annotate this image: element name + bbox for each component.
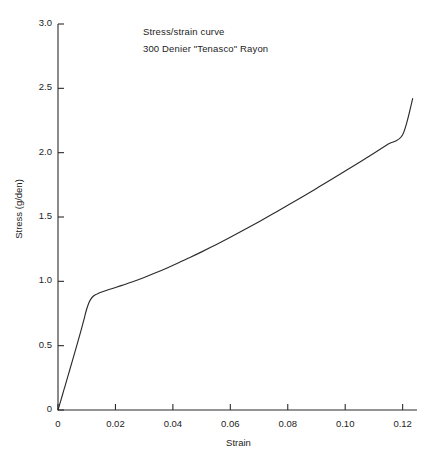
x-tick-label: 0.02 xyxy=(85,418,145,429)
x-tick-label: 0.10 xyxy=(315,418,375,429)
y-tick-marks xyxy=(58,24,64,410)
x-tick-label: 0.08 xyxy=(258,418,318,429)
x-tick-label: 0.12 xyxy=(373,418,433,429)
y-tick-label: 0.5 xyxy=(4,339,52,350)
x-axis-title: Strain xyxy=(226,437,251,448)
y-axis-title: Stress (g/den) xyxy=(13,179,24,239)
y-tick-label: 3.0 xyxy=(4,17,52,28)
y-tick-label: 1.5 xyxy=(4,210,52,221)
y-axis-title-wrap: Stress (g/den) xyxy=(8,159,26,259)
y-tick-label: 0 xyxy=(4,403,52,414)
x-tick-marks xyxy=(58,404,403,410)
y-tick-label: 2.5 xyxy=(4,81,52,92)
chart-title: Stress/strain curve xyxy=(143,26,225,37)
axes-group xyxy=(58,24,417,410)
plot-area xyxy=(0,0,441,460)
chart-figure: Stress/strain curve 300 Denier "Tenasco"… xyxy=(0,0,441,460)
y-tick-label: 2.0 xyxy=(4,146,52,157)
x-tick-label: 0.04 xyxy=(143,418,203,429)
x-axis-title-wrap: Strain xyxy=(0,432,441,450)
x-tick-label: 0.06 xyxy=(200,418,260,429)
x-tick-label: 0 xyxy=(28,418,88,429)
chart-subtitle: 300 Denier "Tenasco" Rayon xyxy=(143,43,268,54)
y-tick-label: 1.0 xyxy=(4,274,52,285)
stress-strain-curve xyxy=(58,99,413,410)
